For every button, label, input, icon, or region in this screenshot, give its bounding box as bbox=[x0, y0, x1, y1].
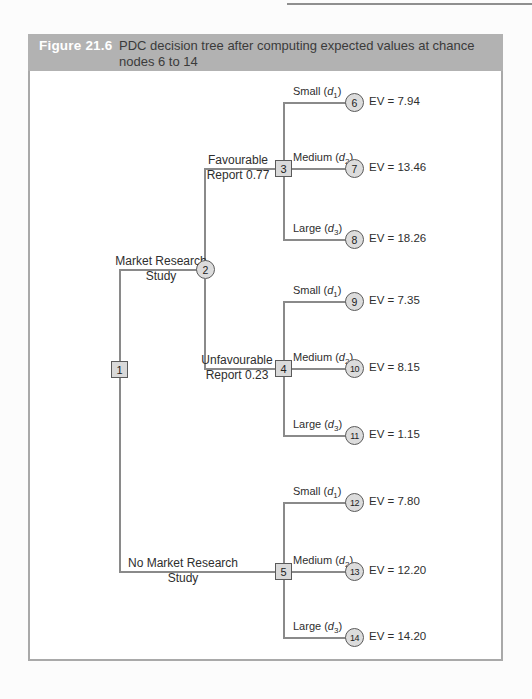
outcome-label-large-14: Large (d3) bbox=[293, 620, 342, 632]
decision-node-1: 1 bbox=[111, 361, 128, 378]
outcome-label-medium-7: Medium (d2) bbox=[293, 151, 353, 163]
ev-value-9: EV = 7.35 bbox=[369, 294, 420, 306]
branch-line-small-6 bbox=[283, 102, 346, 104]
branch-label-favourable-report: Favourable Report 0.77 bbox=[198, 153, 278, 182]
figure-title-line-1: PDC decision tree after computing expect… bbox=[119, 38, 475, 54]
chance-node-9: 9 bbox=[345, 292, 364, 311]
branch-line-large-8 bbox=[283, 239, 346, 241]
branch-label-line: No Market Research bbox=[120, 556, 246, 571]
branch-line bbox=[283, 503, 285, 564]
chance-node-2: 2 bbox=[196, 260, 215, 279]
branch-line bbox=[283, 580, 285, 638]
branch-line-large-11 bbox=[283, 435, 346, 437]
branch-line bbox=[283, 377, 285, 436]
outcome-label-small-12: Small (d1) bbox=[293, 485, 341, 497]
branch-label-line: Favourable bbox=[198, 153, 278, 168]
decision-node-4: 4 bbox=[275, 360, 292, 377]
ev-value-12: EV = 7.80 bbox=[369, 495, 420, 507]
branch-line-medium-7 bbox=[291, 168, 346, 170]
branch-label-line: Report 0.77 bbox=[198, 168, 278, 183]
chance-node-10: 10 bbox=[345, 359, 364, 378]
branch-line bbox=[119, 270, 121, 362]
branch-line-small-12 bbox=[283, 502, 346, 504]
branch-label-line: Report 0.23 bbox=[193, 368, 281, 383]
figure-title: PDC decision tree after computing expect… bbox=[119, 38, 475, 70]
ev-value-7: EV = 13.46 bbox=[369, 161, 426, 173]
decision-node-3: 3 bbox=[275, 160, 292, 177]
branch-label-unfavourable-report: Unfavourable Report 0.23 bbox=[193, 353, 281, 382]
ev-value-14: EV = 14.20 bbox=[369, 630, 426, 642]
chance-node-12: 12 bbox=[345, 493, 364, 512]
chance-node-8: 8 bbox=[345, 230, 364, 249]
branch-line bbox=[283, 302, 285, 361]
branch-label-no-market-research: No Market Research Study bbox=[120, 556, 246, 585]
branch-line bbox=[283, 103, 285, 161]
ev-value-10: EV = 8.15 bbox=[369, 361, 420, 373]
branch-line-large-14 bbox=[283, 637, 346, 639]
outcome-label-large-11: Large (d3) bbox=[293, 418, 342, 430]
figure-number: Figure 21.6 bbox=[39, 38, 118, 53]
ev-value-13: EV = 12.20 bbox=[369, 564, 426, 576]
outcome-label-small-9: Small (d1) bbox=[293, 284, 341, 296]
branch-line-small-9 bbox=[283, 301, 346, 303]
branch-line bbox=[119, 378, 121, 572]
figure-title-line-2: nodes 6 to 14 bbox=[119, 54, 475, 70]
branch-line bbox=[283, 177, 285, 240]
chance-node-6: 6 bbox=[345, 93, 364, 112]
branch-line-medium-10 bbox=[291, 368, 346, 370]
ev-value-6: EV = 7.94 bbox=[369, 95, 420, 107]
page-header-rule bbox=[287, 3, 532, 5]
outcome-label-large-8: Large (d3) bbox=[293, 222, 342, 234]
outcome-label-medium-13: Medium (d2) bbox=[293, 554, 353, 566]
decision-node-5: 5 bbox=[275, 563, 292, 580]
book-page: Figure 21.6 PDC decision tree after comp… bbox=[0, 0, 532, 699]
figure-header-band: Figure 21.6 PDC decision tree after comp… bbox=[28, 34, 503, 71]
branch-line-medium-13 bbox=[291, 571, 346, 573]
chance-node-14: 14 bbox=[345, 628, 364, 647]
branch-label-line: Study bbox=[120, 571, 246, 586]
branch-label-line: Unfavourable bbox=[193, 353, 281, 368]
branch-line bbox=[204, 169, 206, 261]
figure-box bbox=[28, 34, 503, 661]
outcome-label-small-6: Small (d1) bbox=[293, 85, 341, 97]
chance-node-13: 13 bbox=[345, 562, 364, 581]
chance-node-11: 11 bbox=[345, 426, 364, 445]
chance-node-7: 7 bbox=[345, 159, 364, 178]
ev-value-8: EV = 18.26 bbox=[369, 232, 426, 244]
outcome-label-medium-10: Medium (d2) bbox=[293, 351, 353, 363]
ev-value-11: EV = 1.15 bbox=[369, 428, 420, 440]
